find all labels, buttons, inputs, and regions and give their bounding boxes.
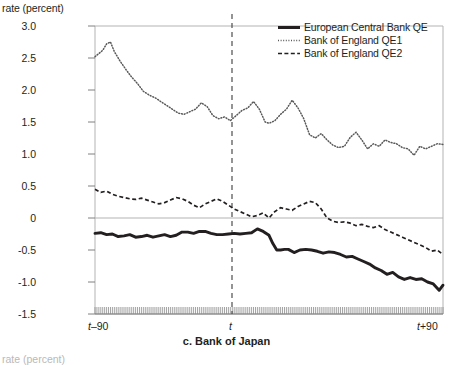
x-minor-tick-marks xyxy=(95,307,443,314)
next-panel-y-axis-title: rate (percent) xyxy=(2,353,65,365)
solid-line-swatch xyxy=(278,23,300,32)
legend-item-ecb-qe: European Central Bank QE xyxy=(278,21,450,34)
panel-caption: c. Bank of Japan xyxy=(0,335,453,347)
legend-label-boe-qe1: Bank of England QE1 xyxy=(304,34,402,46)
series-line-bank-of-england-qe2 xyxy=(95,189,443,254)
dashed-line-swatch xyxy=(278,49,300,58)
dotted-line-swatch xyxy=(278,36,300,45)
series-line-european-central-bank-qe xyxy=(95,229,443,290)
legend: European Central Bank QE Bank of England… xyxy=(278,21,450,60)
y-tick-marks xyxy=(88,26,95,314)
legend-item-boe-qe1: Bank of England QE1 xyxy=(278,34,450,47)
legend-label-ecb-qe: European Central Bank QE xyxy=(304,21,428,33)
legend-item-boe-qe2: Bank of England QE2 xyxy=(278,47,450,60)
legend-label-boe-qe2: Bank of England QE2 xyxy=(304,47,402,59)
